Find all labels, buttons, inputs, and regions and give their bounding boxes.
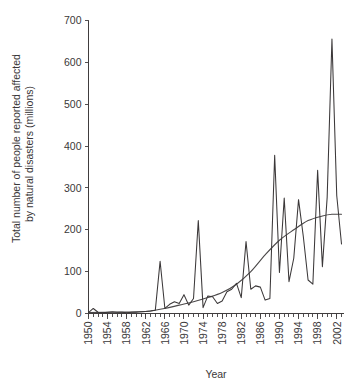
y-tick-label: 700 [64,14,82,26]
x-tick-label: 1982 [235,321,247,345]
y-axis-ticks: 0100200300400500600700 [64,14,89,319]
x-axis-title: Year [205,368,227,380]
y-tick-label: 100 [64,265,82,277]
y-axis-title: Total number of people reported affected… [10,54,35,243]
x-tick-label: 1966 [159,321,171,345]
y-tick-label: 200 [64,223,82,235]
y-tick-label: 300 [64,182,82,194]
y-tick-label: 400 [64,140,82,152]
x-tick-label: 1994 [292,321,304,345]
x-tick-label: 1990 [273,321,285,345]
x-tick-label: 1958 [120,321,132,345]
x-tick-label: 1970 [178,321,190,345]
y-tick-label: 600 [64,56,82,68]
x-tick-label: 1962 [140,321,152,345]
y-tick-label: 500 [64,98,82,110]
y-tick-label: 0 [76,307,82,319]
chart-figure: Total number of people reported affected… [0,0,349,385]
x-axis-ticks: 1950195419581962196619701974197819821986… [82,314,342,345]
x-tick-label: 1974 [197,321,209,345]
x-tick-label: 1986 [254,321,266,345]
x-tick-label: 1954 [101,321,113,345]
line-chart: Total number of people reported affected… [0,0,349,385]
y-axis-title-line-2: by natural disasters (millions) [23,86,35,222]
trend-line-series [89,214,342,312]
x-tick-label: 1950 [82,321,94,345]
data-line-series [89,39,342,313]
x-tick-label: 1998 [311,321,323,345]
y-axis-title-line-1: Total number of people reported affected [10,54,22,243]
x-tick-label: 2002 [331,321,343,345]
x-tick-label: 1978 [216,321,228,345]
